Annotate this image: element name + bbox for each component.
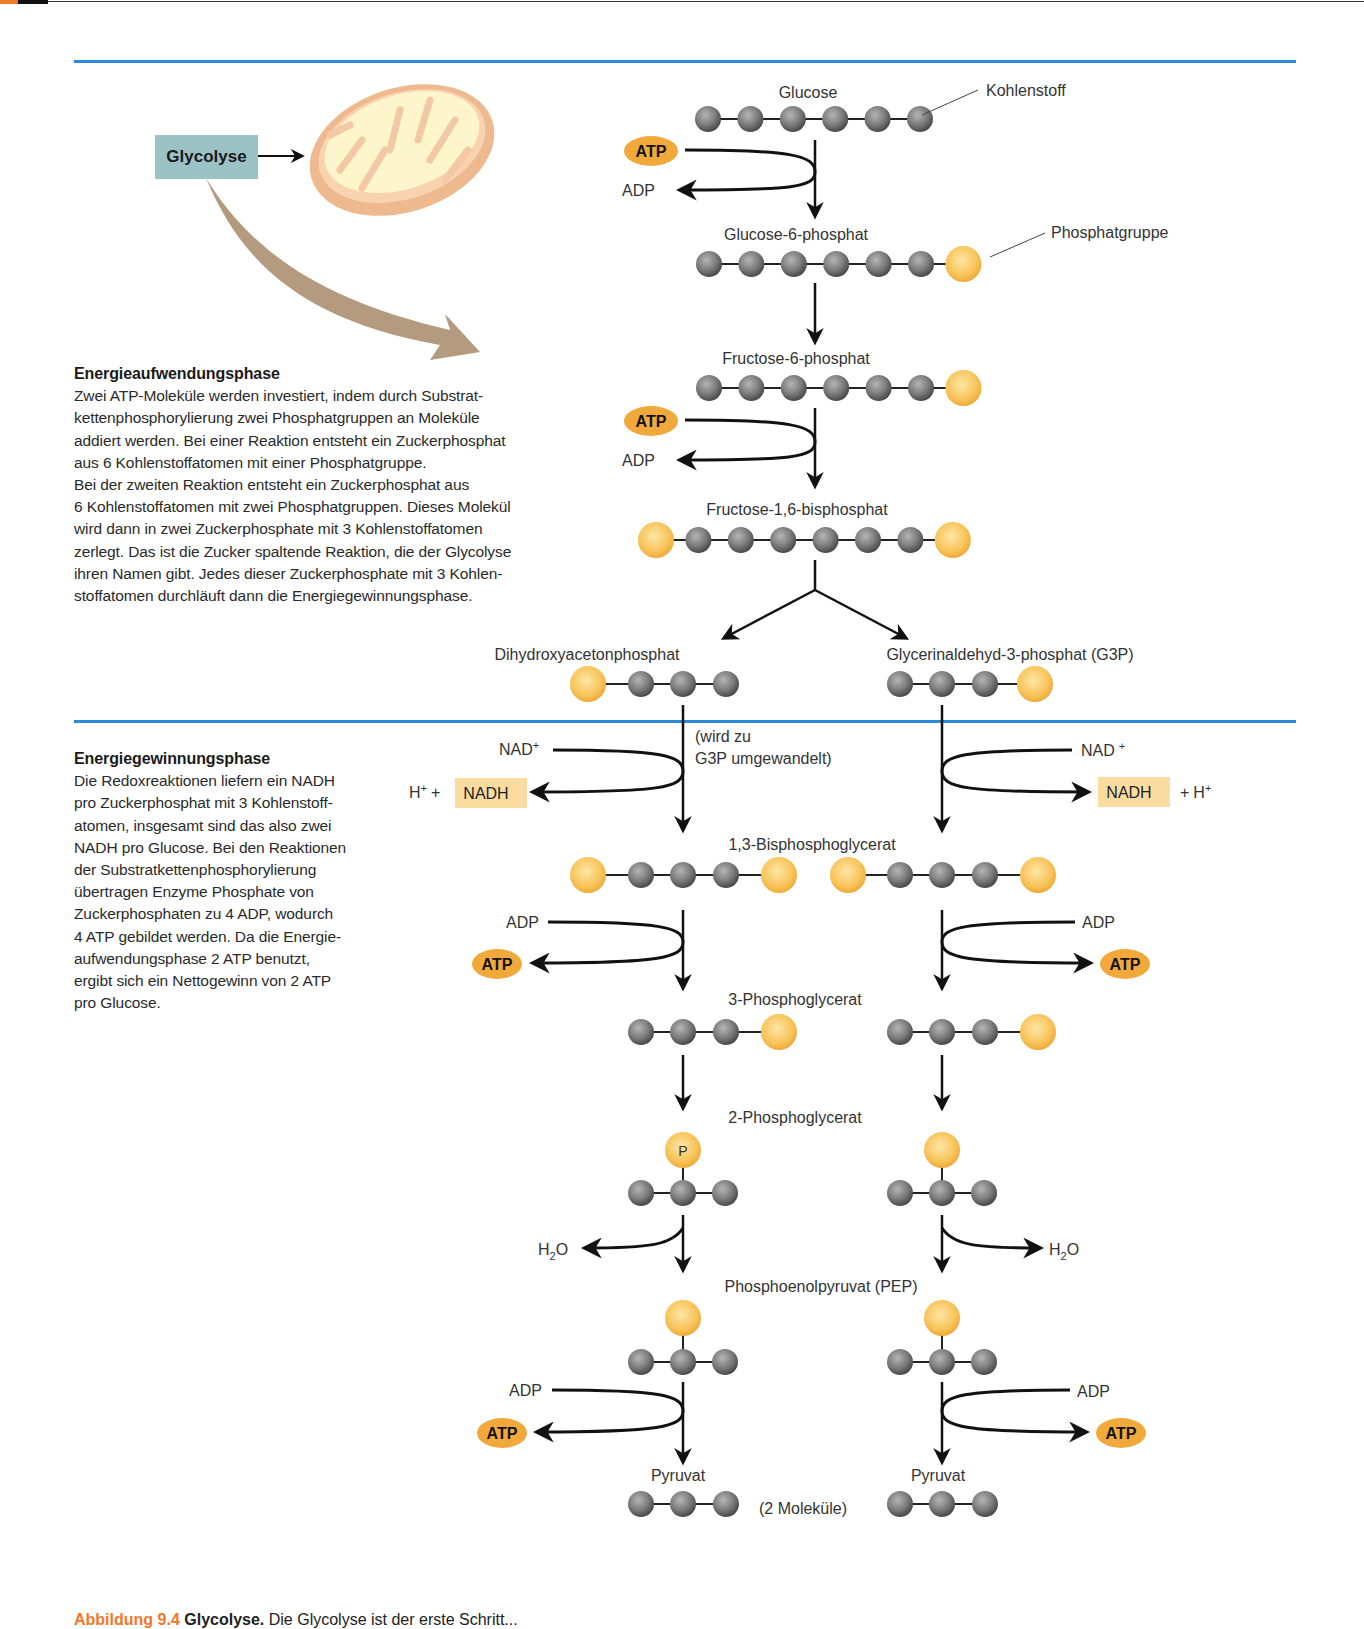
adp-atp-arrow: [942, 922, 1090, 963]
carbon-atom-icon: [971, 1180, 997, 1206]
phosphate-atom-icon: [1017, 666, 1053, 702]
water-release-arrow: [585, 1228, 683, 1248]
carbon-atom-icon: [713, 862, 739, 888]
carbon-atom-icon: [670, 862, 696, 888]
carbon-atom-icon: [713, 1019, 739, 1045]
phosphate-atom-icon: [945, 370, 981, 406]
atp-badge: ATP: [1100, 949, 1150, 979]
label-glucose-6-phosphat: Glucose-6-phosphat: [724, 226, 869, 243]
dhap-molecule: [570, 666, 739, 702]
carbon-atom-icon: [770, 527, 796, 553]
label-1-3-bisphosphoglycerat: 1,3-Bisphosphoglycerat: [728, 836, 896, 853]
nadh-box: NADH: [455, 778, 527, 808]
phosphate-atom-icon: [665, 1300, 701, 1336]
carbon-atom-icon: [713, 671, 739, 697]
svg-text:ATP: ATP: [482, 956, 513, 973]
carbon-atom-icon: [628, 862, 654, 888]
atp-badge: ATP: [624, 406, 678, 436]
carbon-atom-icon: [813, 527, 839, 553]
pyruvate-molecule-left: [628, 1491, 739, 1517]
carbon-atom-icon: [929, 1349, 955, 1375]
carbon-atom-icon: [781, 375, 807, 401]
label-fructose-1-6-bisphosphat: Fructose-1,6-bisphosphat: [706, 501, 888, 518]
carbon-atom-icon: [713, 1491, 739, 1517]
carbon-atom-icon: [696, 251, 722, 277]
atp-badge: ATP: [472, 949, 522, 979]
phosphate-atom-icon: [761, 1014, 797, 1050]
label-dhap: Dihydroxyacetonphosphat: [494, 646, 680, 663]
label-g3p: Glycerinaldehyd-3-phosphat (G3P): [886, 646, 1133, 663]
carbon-atom-icon: [670, 1019, 696, 1045]
bpg13-molecule-left: [570, 857, 797, 893]
figure-number: Abbildung 9.4: [74, 1611, 180, 1628]
dhap-note-line1: (wird zu: [695, 728, 751, 745]
adp-label: ADP: [622, 452, 655, 469]
carbon-atom-icon: [738, 375, 764, 401]
carbon-atom-icon: [972, 862, 998, 888]
atp-adp-arrow: [680, 150, 815, 190]
phosphate-atom-icon: [1020, 857, 1056, 893]
adp-atp-arrow: [537, 1390, 683, 1432]
carbon-atom-icon: [822, 106, 848, 132]
figure-text: Die Glycolyse ist der erste Schritt...: [269, 1611, 518, 1628]
carbon-atom-icon: [737, 106, 763, 132]
svg-text:NADH: NADH: [1106, 784, 1151, 801]
phosphate-atom-icon: [1020, 1014, 1056, 1050]
label-fructose-6-phosphat: Fructose-6-phosphat: [722, 350, 870, 367]
h-plus-label: +H+: [1180, 782, 1211, 801]
atp-badge: ATP: [624, 136, 678, 166]
carbon-atom-icon: [628, 1180, 654, 1206]
g3p-molecule: [887, 666, 1053, 702]
phosphate-atom-icon: [924, 1132, 960, 1168]
carbon-atom-icon: [929, 671, 955, 697]
carbon-atom-icon: [929, 1019, 955, 1045]
carbon-atom-icon: [887, 1491, 913, 1517]
carbon-atom-icon: [972, 1491, 998, 1517]
carbon-atom-icon: [866, 251, 892, 277]
atp-adp-arrow: [680, 420, 815, 460]
adp-atp-arrow: [942, 1390, 1086, 1432]
adp-label: ADP: [509, 1382, 542, 1399]
adp-atp-arrow: [533, 922, 683, 963]
carbon-atom-icon: [738, 251, 764, 277]
carbon-atom-icon: [780, 106, 806, 132]
svg-text:ATP: ATP: [487, 1425, 518, 1442]
glucose-molecule: [695, 106, 933, 132]
carbon-atom-icon: [907, 106, 933, 132]
carbon-atom-icon: [712, 1349, 738, 1375]
atp-badge: ATP: [477, 1418, 527, 1448]
figure-title: Glycolyse.: [184, 1611, 264, 1628]
svg-text:NADH: NADH: [463, 785, 508, 802]
atp-badge: ATP: [1096, 1418, 1146, 1448]
pg3-molecule-left: [628, 1014, 797, 1050]
svg-text:ATP: ATP: [1110, 956, 1141, 973]
pg2-molecule-right: [887, 1132, 997, 1206]
g6p-molecule: [696, 246, 981, 282]
svg-text:ATP: ATP: [1106, 1425, 1137, 1442]
phosphate-atom-icon: [570, 666, 606, 702]
carbon-atom-icon: [929, 1491, 955, 1517]
carbon-atom-icon: [972, 671, 998, 697]
carbon-atom-icon: [887, 1349, 913, 1375]
f16bp-molecule: [638, 522, 971, 558]
split-arrows: [724, 560, 906, 638]
h-plus-label: H++: [409, 782, 440, 801]
carbon-atom-icon: [929, 1180, 955, 1206]
svg-text:ATP: ATP: [636, 143, 667, 160]
carbon-atom-icon: [695, 106, 721, 132]
adp-label: ADP: [1077, 1383, 1110, 1400]
label-pyruvat-right: Pyruvat: [911, 1467, 966, 1484]
pyruvate-count-note: (2 Moleküle): [759, 1500, 847, 1517]
nad-label: NAD+: [1081, 740, 1125, 759]
carbon-atom-icon: [712, 1180, 738, 1206]
carbon-atom-icon: [887, 671, 913, 697]
carbon-atom-icon: [670, 1491, 696, 1517]
carbon-atom-icon: [823, 251, 849, 277]
carbon-atom-icon: [887, 862, 913, 888]
pyruvate-molecule-right: [887, 1491, 998, 1517]
label-glucose: Glucose: [779, 84, 838, 101]
phosphate-leader-line: [990, 233, 1045, 257]
carbon-atom-icon: [781, 251, 807, 277]
phosphate-atom-icon: [830, 857, 866, 893]
carbon-atom-icon: [866, 375, 892, 401]
